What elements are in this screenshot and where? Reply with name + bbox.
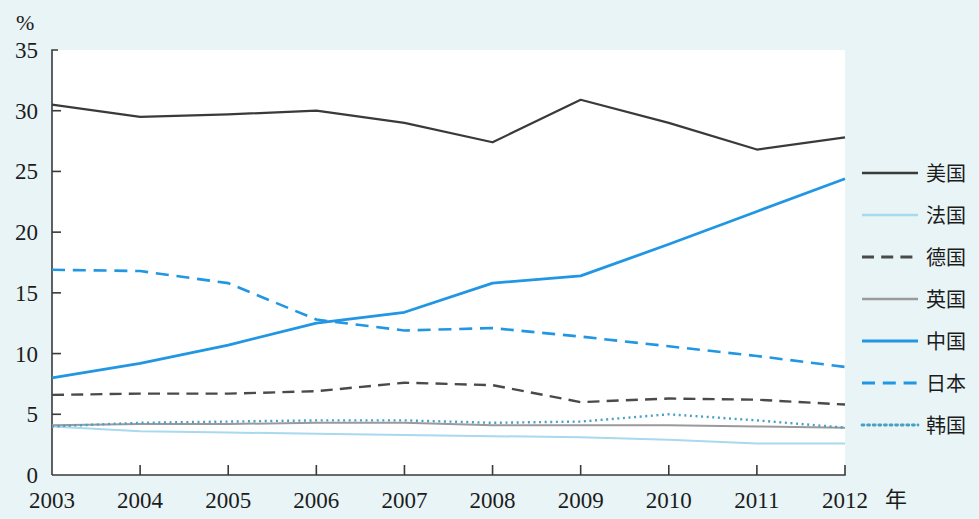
x-axis-tick-label: 2005	[205, 488, 251, 513]
line-chart: 05101520253035 2003200420052006200720082…	[0, 0, 979, 519]
y-axis-tick-label: 10	[15, 342, 38, 367]
legend-label: 中国	[926, 330, 966, 354]
y-axis-tick-label: 25	[15, 159, 38, 184]
legend-label: 美国	[926, 162, 966, 186]
x-axis-tick-label: 2006	[293, 488, 339, 513]
legend-label: 韩国	[926, 414, 966, 438]
y-axis-tick-label: 35	[15, 38, 38, 63]
legend-label: 法国	[926, 204, 966, 228]
plot-area-background	[52, 50, 845, 475]
x-axis-tick-label: 2003	[29, 488, 75, 513]
x-axis-tick-label: 2011	[734, 488, 779, 513]
y-axis-tick-label: 5	[27, 402, 39, 427]
x-axis-tick-label: 2008	[470, 488, 516, 513]
x-axis-tick-label: 2004	[117, 488, 164, 513]
y-axis-unit-label: %	[16, 10, 34, 35]
legend-label: 日本	[926, 372, 966, 396]
x-axis-unit-label: 年	[885, 487, 907, 512]
y-axis-tick-label: 15	[15, 281, 38, 306]
x-axis-tick-label: 2012	[822, 488, 868, 513]
legend-label: 德国	[926, 246, 966, 270]
x-axis-tick-label: 2009	[558, 488, 604, 513]
y-axis-tick-label: 0	[27, 463, 39, 488]
x-axis-tick-label: 2007	[381, 488, 427, 513]
x-axis-tick-label: 2010	[646, 488, 692, 513]
y-axis-tick-label: 30	[15, 99, 38, 124]
legend-label: 英国	[926, 288, 966, 312]
chart-canvas: 05101520253035 2003200420052006200720082…	[0, 0, 979, 519]
y-axis-tick-label: 20	[15, 220, 38, 245]
